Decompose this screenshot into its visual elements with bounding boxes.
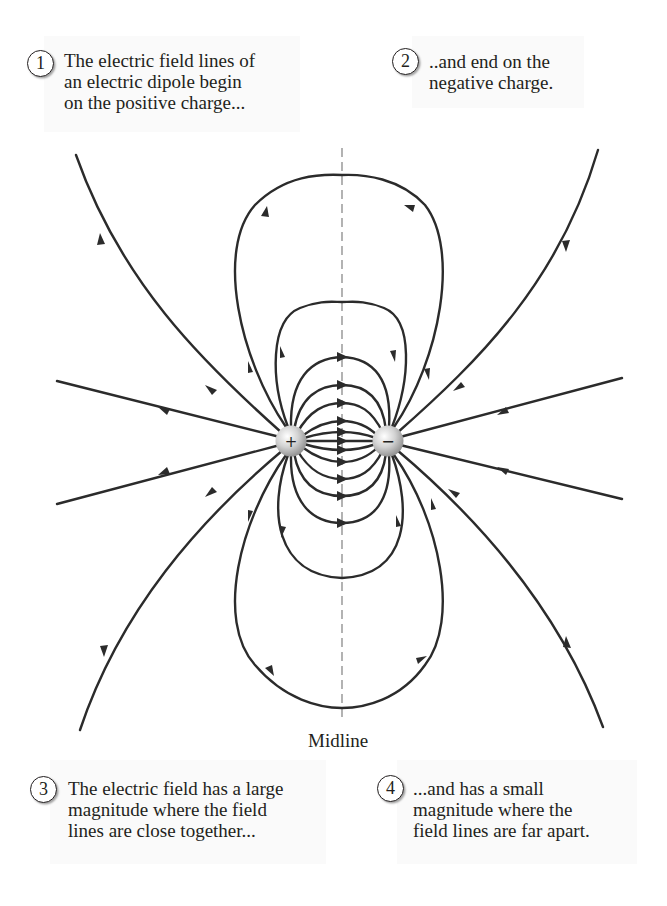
field-loop-top-3 [291, 357, 389, 427]
field-loop-top-2 [276, 302, 406, 427]
field-line-outer-top-left [76, 155, 282, 433]
callout-1-number: 1 [27, 50, 54, 77]
field-loop-bottom-2 [278, 455, 403, 578]
field-line-outer-top-right [397, 150, 598, 433]
callout-2-number: 2 [392, 48, 419, 75]
callout-2-text: ..and end on the negative charge. [429, 51, 553, 93]
field-line-outer-lower-right [400, 445, 622, 499]
callout-4-number: 4 [377, 775, 404, 802]
field-line-outer-upper-right [400, 378, 622, 437]
negative-charge: − [373, 426, 404, 457]
field-line-outer-lower-left [57, 445, 280, 504]
midline-label: Midline [308, 730, 368, 752]
callout-3-text: The electric field has a large magnitude… [68, 778, 283, 841]
callout-3-number: 3 [30, 776, 57, 803]
callout-1-text: The electric field lines of an electric … [64, 50, 255, 113]
positive-charge-sign: + [285, 433, 298, 451]
positive-charge: + [276, 426, 307, 457]
field-line-outer-bottom-left [80, 450, 283, 730]
callout-4-text: ...and has a small magnitude where the f… [413, 778, 590, 841]
field-line-outer-bottom-right [397, 450, 603, 727]
negative-charge-sign: − [381, 432, 394, 451]
